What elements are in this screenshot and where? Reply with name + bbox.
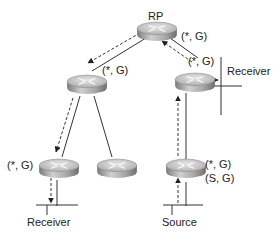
router-mid-left-icon xyxy=(67,75,107,94)
receiver-right-label: Receiver xyxy=(227,65,270,77)
link-midleft-bottommiddle xyxy=(94,96,112,157)
flow-midleft-to-bottomleft xyxy=(56,98,73,152)
rp-label: RP xyxy=(148,10,163,22)
router-mid-right-icon xyxy=(175,73,215,92)
router-rp-icon xyxy=(137,22,177,41)
bottom-left-state-label: (*, G) xyxy=(7,159,33,171)
mid-left-state-label: (*, G) xyxy=(102,64,128,76)
router-bottom-right-icon xyxy=(166,159,206,178)
receiver-left-label: Receiver xyxy=(27,216,70,228)
source-label: Source xyxy=(162,216,197,228)
bottom-right-state-label: (*, G) xyxy=(205,158,231,170)
rp-state-label: (*, G) xyxy=(181,30,207,42)
router-bottom-middle-icon xyxy=(97,159,137,178)
bottom-right-state2-label: (S, G) xyxy=(205,172,234,184)
mid-right-state-label: (*, G) xyxy=(188,55,214,67)
router-bottom-left-icon xyxy=(39,159,79,178)
flow-rp-to-midleft xyxy=(88,33,140,63)
network-diagram xyxy=(0,0,278,235)
